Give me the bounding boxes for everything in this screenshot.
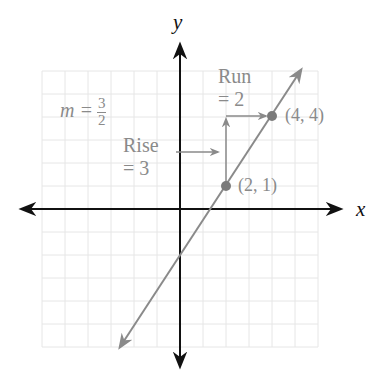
point-label-2-1: (2, 1) (238, 176, 277, 194)
rise-label-line1: Rise (123, 135, 159, 155)
coordinate-plane (0, 0, 388, 372)
slope-numerator: 3 (97, 96, 107, 113)
run-label-line2: = 2 (218, 89, 251, 109)
run-label: Run = 2 (218, 66, 251, 109)
rise-label-line2: = 3 (123, 158, 159, 178)
slope-denominator: 2 (97, 113, 107, 129)
slope-label: m =32 (60, 96, 106, 129)
slope-diagram: y x m =32 Rise = 3 Run = 2 (2, 1) (4, 4) (0, 0, 388, 372)
point-label-4-4: (4, 4) (285, 106, 324, 124)
rise-label: Rise = 3 (123, 135, 159, 178)
slope-fraction: 32 (97, 96, 107, 129)
point-4-4 (267, 111, 277, 121)
slope-prefix: m = (60, 99, 93, 121)
run-label-line1: Run (218, 66, 251, 86)
x-axis-label: x (356, 199, 365, 220)
point-2-1 (221, 181, 231, 191)
y-axis-label: y (173, 12, 182, 33)
